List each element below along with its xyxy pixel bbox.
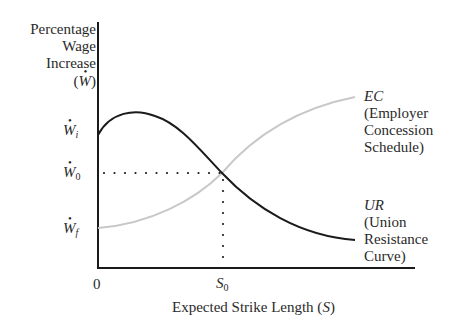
guide-dot — [222, 212, 224, 214]
guide-dot — [222, 223, 224, 225]
ur-label-line-2: Resistance — [364, 231, 428, 248]
y-axis-title: Percentage Wage Increase (W) — [30, 21, 96, 90]
s0-guide-dots — [222, 179, 224, 258]
guide-dot — [197, 172, 199, 174]
guide-dot — [222, 179, 224, 181]
x-origin-label: 0 — [93, 276, 101, 293]
ec-label-line-3: Schedule) — [364, 139, 433, 156]
guide-dot — [145, 172, 147, 174]
guide-dot — [222, 245, 224, 247]
ec-label-line-2: Concession — [364, 122, 433, 139]
w-dot-symbol: W — [79, 73, 92, 90]
ec-label-line-1: (Employer — [364, 105, 433, 122]
y-axis-title-line-1: Percentage — [30, 21, 96, 38]
x-axis-title: Expected Strike Length (S) — [172, 299, 335, 316]
y-axis-title-line-2: Wage — [30, 38, 96, 55]
ur-label-line-3: Curve) — [364, 248, 428, 265]
x-tick-s0: S0 — [216, 275, 229, 296]
y-tick-wi: Wi — [63, 122, 78, 143]
ec-abbr: EC — [364, 88, 433, 105]
guide-dot — [222, 201, 224, 203]
guide-dot — [222, 234, 224, 236]
guide-dot — [218, 172, 220, 174]
ur-curve-label: UR (Union Resistance Curve) — [364, 197, 428, 265]
guide-dot — [187, 172, 189, 174]
guide-dot — [176, 172, 178, 174]
ur-label-line-1: (Union — [364, 214, 428, 231]
y-tick-w0: W0 — [63, 164, 81, 185]
guide-dot — [166, 172, 168, 174]
guide-dot — [155, 172, 157, 174]
guide-dot — [134, 172, 136, 174]
ec-curve — [98, 97, 355, 228]
y-tick-wf: Wf — [63, 220, 78, 241]
w0-guide-dots — [103, 172, 221, 174]
guide-dot — [113, 172, 115, 174]
ur-abbr: UR — [364, 197, 428, 214]
guide-dot — [222, 256, 224, 258]
guide-dot — [124, 172, 126, 174]
guide-dot — [208, 172, 210, 174]
guide-dot — [222, 190, 224, 192]
ec-curve-label: EC (Employer Concession Schedule) — [364, 88, 433, 156]
y-axis-symbol: (W) — [30, 73, 96, 90]
guide-dot — [103, 172, 105, 174]
